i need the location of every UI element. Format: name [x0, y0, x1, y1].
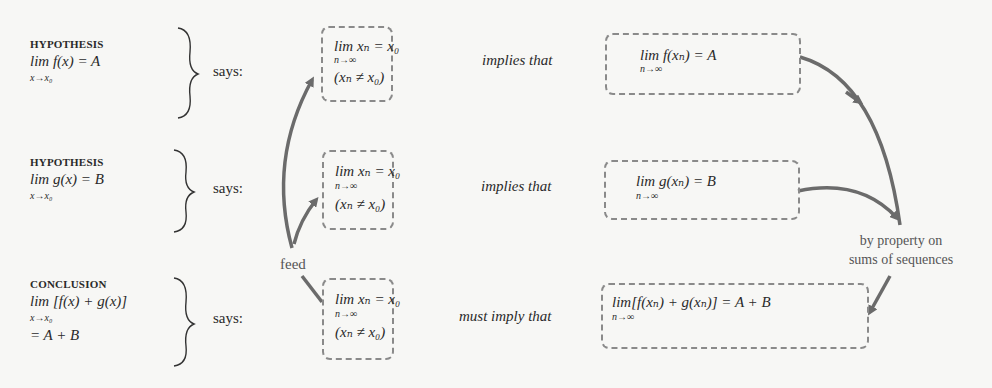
feed-arrow-to-row2 [294, 200, 316, 244]
row1-heading: HYPOTHESIS [30, 38, 104, 50]
property-note-line2: sums of sequences [826, 250, 976, 269]
property-note: by property on sums of sequences [826, 231, 976, 269]
arrow-row1-to-property [800, 57, 900, 225]
row2-says: says: [213, 180, 243, 197]
row3-seq-line1: lim xₙ = x₀ [335, 290, 400, 308]
row1-statement-sub: x→x₀ [30, 72, 52, 83]
row2-seq-sub: n→∞ [335, 180, 357, 191]
row2-seq-line2: (xₙ ≠ x₀) [335, 195, 385, 213]
row1-result-sub: n→∞ [640, 63, 662, 74]
row1-statement: lim f(x) = A [30, 53, 100, 70]
row1-result-box [605, 33, 801, 95]
row3-statement: lim [f(x) + g(x)] [30, 293, 127, 310]
row3-seq-sub: n→∞ [335, 308, 357, 319]
arrow-row2-to-property [798, 188, 897, 218]
row3-says: says: [213, 310, 243, 327]
row2-statement: lim g(x) = B [30, 171, 104, 188]
row1-connector: implies that [482, 52, 552, 69]
row1-result: lim f(xₙ) = A [640, 46, 716, 64]
row2-result-box [604, 160, 800, 220]
row2-result-sub: n→∞ [636, 190, 658, 201]
row1-says: says: [213, 63, 243, 80]
row3-statement-sub: x→x₀ [30, 312, 52, 323]
brace-row3 [174, 278, 194, 366]
row2-seq-line1: lim xₙ = x₀ [335, 162, 400, 180]
row2-heading: HYPOTHESIS [30, 156, 104, 168]
row2-result: lim g(xₙ) = B [636, 172, 716, 190]
row3-statement-extra: = A + B [30, 327, 79, 344]
row3-seq-line2: (xₙ ≠ x₀) [335, 323, 385, 341]
row3-result: lim[f(xₙ) + g(xₙ)] = A + B [612, 293, 771, 311]
property-note-line1: by property on [826, 231, 976, 250]
row2-connector: implies that [481, 178, 551, 195]
row3-result-sub: n→∞ [612, 311, 634, 322]
row3-connector: must imply that [459, 308, 552, 325]
row1-seq-line1: lim xₙ = x₀ [334, 37, 399, 55]
row1-seq-sub: n→∞ [334, 54, 356, 65]
row3-heading: CONCLUSION [30, 278, 107, 290]
feed-arrow-to-row1 [284, 80, 312, 248]
brace-row2 [174, 150, 194, 232]
row2-statement-sub: x→x₀ [30, 190, 52, 201]
feed-label: feed [280, 255, 306, 274]
brace-row1 [178, 28, 198, 118]
row1-seq-line2: (xₙ ≠ x₀) [334, 68, 384, 86]
arrow-property-to-conclusion [870, 276, 890, 312]
feed-line-from-row3 [302, 276, 322, 302]
